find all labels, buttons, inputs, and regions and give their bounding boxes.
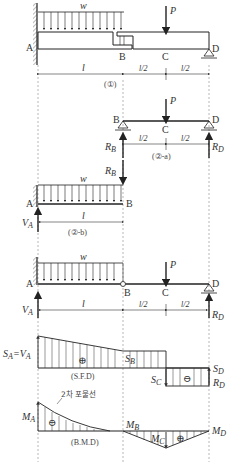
caption-1: (①) bbox=[104, 80, 117, 89]
reaction-rb: RB bbox=[104, 165, 116, 178]
force-label-p: P bbox=[169, 95, 176, 106]
bending-moment-diagram: 2차 포물선 ⊖ ⊕ MA MB MC MD (B.M.D) bbox=[21, 390, 226, 448]
force-label-p: P bbox=[169, 5, 176, 16]
point-d: D bbox=[212, 278, 219, 289]
point-a: A bbox=[26, 198, 34, 209]
label-rd: RD bbox=[212, 377, 225, 390]
point-b: B bbox=[126, 198, 133, 209]
parabola-annotation: 2차 포물선 bbox=[61, 390, 96, 399]
dim-ab: l bbox=[82, 210, 85, 221]
caption-sfd: (S.F.D) bbox=[71, 372, 95, 381]
reaction-rb: RB bbox=[104, 141, 116, 154]
point-d: D bbox=[212, 114, 219, 125]
hinge-icon bbox=[121, 282, 126, 287]
dim-ab: l bbox=[82, 62, 85, 73]
plus-sign-icon: ⊕ bbox=[176, 433, 184, 444]
point-b: B bbox=[124, 287, 131, 298]
reaction-rd: RD bbox=[211, 141, 224, 154]
dim-cd: l/2 bbox=[181, 134, 189, 143]
caption-2b: (②-b) bbox=[68, 228, 87, 237]
point-b: B bbox=[113, 114, 120, 125]
reaction-rd: RD bbox=[211, 309, 224, 322]
point-a: A bbox=[26, 278, 34, 289]
figure-1-compound-beam: w P A B C D l l/2 l/2 (①) bbox=[26, 0, 219, 89]
label-md: MD bbox=[211, 425, 226, 438]
force-label-p: P bbox=[169, 259, 176, 270]
point-d: D bbox=[212, 43, 219, 54]
label-mc: MC bbox=[150, 433, 165, 446]
caption-2a: (②-a) bbox=[152, 152, 171, 161]
point-b: B bbox=[119, 51, 126, 62]
label-sc: SC bbox=[151, 374, 162, 387]
point-c: C bbox=[162, 124, 169, 135]
dim-cd: l/2 bbox=[181, 64, 189, 73]
reaction-va: VA bbox=[22, 304, 33, 317]
guide-lines bbox=[38, 65, 209, 462]
minus-sign-icon: ⊖ bbox=[48, 417, 56, 428]
load-label-w: w bbox=[80, 0, 87, 11]
dim-bc: l/2 bbox=[139, 300, 147, 309]
dim-cd: l/2 bbox=[181, 300, 189, 309]
label-sa-va: SA=VA bbox=[3, 348, 31, 361]
minus-sign-icon: ⊖ bbox=[183, 373, 191, 384]
load-label-w: w bbox=[80, 173, 87, 184]
shear-force-diagram: ⊕ ⊖ SA=VA SB SC SD RD (S.F.D) bbox=[3, 336, 225, 390]
reaction-va: VA bbox=[22, 217, 33, 230]
figure-2b-cantilever: RB w A B VA l (②-b) bbox=[22, 160, 133, 237]
point-a: A bbox=[26, 42, 34, 53]
caption-bmd: (B.M.D) bbox=[71, 438, 99, 447]
dim-ab: l bbox=[82, 298, 85, 309]
structural-diagram: w P A B C D l l/2 l/2 (①) P bbox=[0, 0, 228, 462]
label-mb: MB bbox=[125, 419, 139, 432]
point-c: C bbox=[162, 51, 169, 62]
label-ma: MA bbox=[21, 411, 35, 424]
figure-2a-simple-beam: P B C D RB RD l/2 l/2 (②-a) bbox=[104, 95, 224, 161]
dim-bc: l/2 bbox=[139, 134, 147, 143]
dim-bc: l/2 bbox=[139, 64, 147, 73]
load-label-w: w bbox=[80, 251, 87, 262]
point-c: C bbox=[162, 287, 169, 298]
label-sd: SD bbox=[213, 363, 224, 376]
plus-sign-icon: ⊕ bbox=[78, 355, 86, 366]
distributed-load-arrows bbox=[44, 12, 121, 29]
